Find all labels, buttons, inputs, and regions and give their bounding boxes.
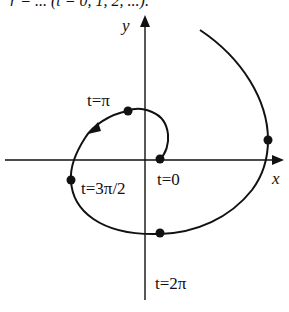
x-axis-arrow-icon <box>272 155 284 165</box>
x-axis-label: x <box>271 169 280 188</box>
spiral-diagram: r = ... (t = 0, 1, 2, ...). x y t=0 t=π … <box>0 0 289 312</box>
spiral-curve <box>71 30 268 234</box>
point-tpi <box>124 107 133 116</box>
label-tpi: t=π <box>87 91 110 110</box>
point-t2pi <box>156 229 165 238</box>
label-t3pi2: t=3π/2 <box>81 179 126 198</box>
point-t0 <box>156 155 165 164</box>
top-caption: r = ... (t = 0, 1, 2, ...). <box>10 0 149 10</box>
point-t3pi2 <box>67 176 76 185</box>
y-axis-arrow-icon <box>140 15 150 27</box>
point-right <box>264 136 273 145</box>
y-axis-label: y <box>120 16 130 35</box>
label-t2pi: t=2π <box>155 274 187 293</box>
label-t0: t=0 <box>157 170 180 189</box>
